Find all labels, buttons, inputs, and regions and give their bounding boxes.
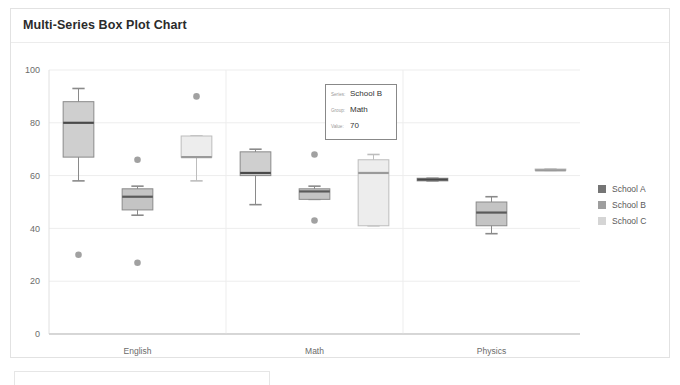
box-school-a-english-outlier-point[interactable] — [75, 252, 82, 259]
legend-swatch-icon — [598, 217, 606, 225]
box-school-a-english-rect[interactable] — [63, 102, 94, 157]
legend-item-label: School C — [612, 216, 647, 226]
legend-item-school-a[interactable]: School A — [598, 182, 647, 196]
box-school-c-math-rect[interactable] — [358, 160, 389, 226]
legend-item-school-c[interactable]: School C — [598, 214, 647, 228]
y-axis-tick-label: 20 — [30, 276, 40, 286]
box-school-b-english-outlier-point[interactable] — [134, 259, 141, 266]
box-school-c-english-outlier-point[interactable] — [193, 93, 200, 100]
y-axis-tick-label: 40 — [30, 224, 40, 234]
y-axis-tick-label: 60 — [30, 171, 40, 181]
tooltip-group-row: Group: Math — [331, 105, 391, 121]
box-school-b-physics-rect[interactable] — [476, 202, 507, 226]
box-school-c-english-rect[interactable] — [181, 136, 212, 157]
box-plot-canvas: 020406080100EnglishMathPhysics — [0, 0, 680, 385]
x-axis-category-label: Math — [305, 346, 324, 356]
chart-screenshot: Multi-Series Box Plot Chart 020406080100… — [0, 0, 680, 385]
tooltip-value-row: Value: 70 — [331, 121, 391, 137]
box-plot-svg: 020406080100EnglishMathPhysics — [0, 0, 680, 385]
tooltip-value-label: Value: — [331, 124, 350, 129]
y-axis-tick-label: 0 — [35, 329, 40, 339]
legend-item-label: School A — [612, 184, 646, 194]
x-axis-category-label: English — [124, 346, 152, 356]
box-school-b-math-outlier-point[interactable] — [311, 151, 318, 158]
legend-swatch-icon — [598, 185, 606, 193]
tooltip-group-value: Math — [350, 105, 368, 114]
tooltip-series-label: Series: — [331, 92, 350, 97]
legend-swatch-icon — [598, 201, 606, 209]
box-school-b-english-outlier-point[interactable] — [134, 156, 141, 163]
tooltip-series-value: School B — [350, 89, 382, 98]
y-axis-tick-label: 100 — [25, 65, 40, 75]
box-school-b-math-outlier-point[interactable] — [311, 217, 318, 224]
y-axis-tick-label: 80 — [30, 118, 40, 128]
legend-item-school-b[interactable]: School B — [598, 198, 647, 212]
chart-tooltip: Series: School B Group: Math Value: 70 — [325, 84, 397, 140]
chart-legend: School ASchool BSchool C — [598, 182, 647, 230]
tooltip-group-label: Group: — [331, 108, 350, 113]
tooltip-value-value: 70 — [350, 121, 359, 130]
box-school-b-english-rect[interactable] — [122, 189, 153, 210]
x-axis-category-label: Physics — [477, 346, 506, 356]
tooltip-series-row: Series: School B — [331, 89, 391, 105]
legend-item-label: School B — [612, 200, 646, 210]
bottom-panel-strip — [14, 371, 270, 385]
